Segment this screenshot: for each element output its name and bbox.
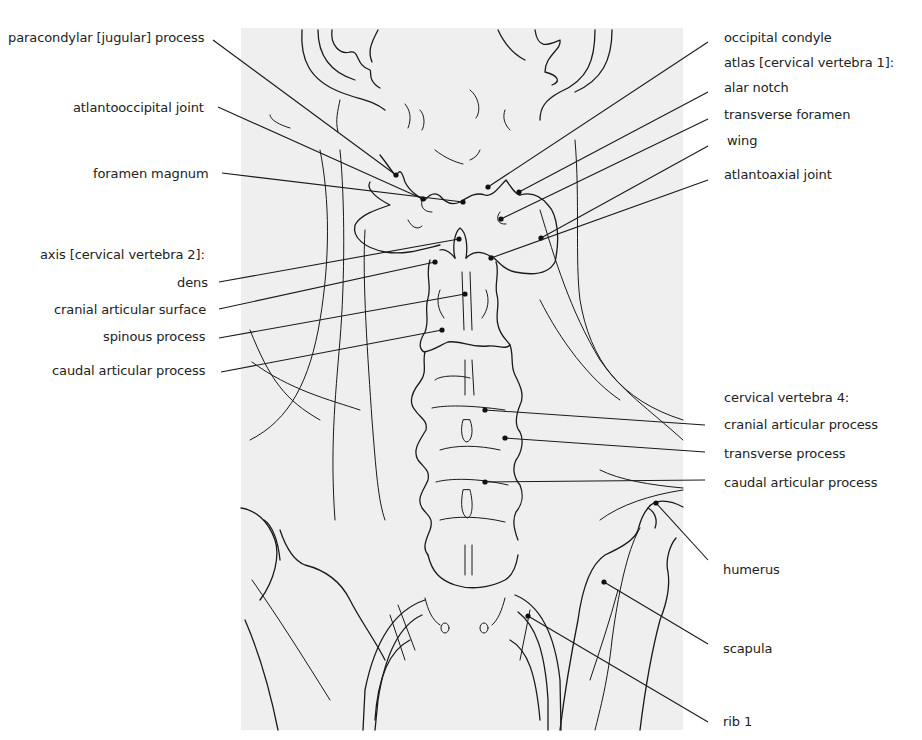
leader-line-foramen-magnum bbox=[222, 173, 463, 202]
pointer-dot-humerus bbox=[653, 500, 658, 505]
leader-line-caudal-articular-process-c4 bbox=[485, 480, 705, 482]
label-dens: dens bbox=[177, 275, 208, 291]
leader-line-atlantoaxial-joint bbox=[491, 180, 708, 258]
pointer-dot-cranial-articular-process-c4 bbox=[482, 407, 487, 412]
leader-line-occipital-condyle bbox=[488, 42, 708, 187]
leader-line-transverse-foramen bbox=[501, 119, 708, 219]
pointer-dot-alar-notch bbox=[516, 189, 521, 194]
label-occipital-condyle: occipital condyle bbox=[724, 30, 832, 46]
pointer-dot-rib-1 bbox=[525, 613, 530, 618]
pointer-dot-scapula bbox=[601, 579, 606, 584]
leader-line-alar-notch bbox=[519, 92, 708, 192]
anatomy-figure: paracondylar [jugular] processatlantoocc… bbox=[0, 0, 922, 740]
leader-line-transverse-process-c4 bbox=[505, 438, 705, 452]
pointer-dot-spinous-process bbox=[462, 291, 467, 296]
leader-line-humerus bbox=[656, 503, 708, 560]
label-transverse-process-c4: transverse process bbox=[724, 446, 846, 462]
label-caudal-articular-process-c2: caudal articular process bbox=[52, 363, 205, 379]
pointer-dot-occipital-condyle bbox=[485, 184, 490, 189]
pointer-dot-paracondylar bbox=[393, 172, 398, 177]
label-cranial-articular-surface: cranial articular surface bbox=[54, 302, 206, 318]
pointer-dot-caudal-articular-process-c4 bbox=[482, 479, 487, 484]
label-rib-1: rib 1 bbox=[723, 714, 752, 730]
leader-line-paracondylar bbox=[213, 40, 396, 175]
leader-line-cranial-articular-surface bbox=[219, 262, 435, 309]
pointer-dot-transverse-process-c4 bbox=[502, 435, 507, 440]
pointer-dot-caudal-articular-process-c2 bbox=[439, 327, 444, 332]
label-transverse-foramen: transverse foramen bbox=[724, 107, 850, 123]
label-caudal-articular-process-c4: caudal articular process bbox=[724, 475, 877, 491]
label-alar-notch: alar notch bbox=[724, 80, 789, 96]
leader-line-dens bbox=[219, 239, 459, 282]
pointer-dot-atlantoaxial-joint bbox=[488, 255, 493, 260]
pointer-dot-dens bbox=[456, 236, 461, 241]
label-atlas-header: atlas [cervical vertebra 1]: bbox=[724, 55, 894, 71]
leader-line-cranial-articular-process-c4 bbox=[485, 410, 705, 425]
pointer-dot-cranial-articular-surface bbox=[432, 259, 437, 264]
label-paracondylar: paracondylar [jugular] process bbox=[8, 30, 204, 46]
label-foramen-magnum: foramen magnum bbox=[93, 166, 209, 182]
label-humerus: humerus bbox=[723, 562, 780, 578]
label-atlantoaxial-joint: atlantoaxial joint bbox=[724, 167, 832, 183]
label-wing: wing bbox=[727, 133, 757, 149]
label-scapula: scapula bbox=[723, 641, 772, 657]
label-cv4-header: cervical vertebra 4: bbox=[724, 390, 849, 406]
leader-line-rib-1 bbox=[528, 616, 708, 722]
leader-line-caudal-articular-process-c2 bbox=[221, 330, 442, 372]
leader-line-scapula bbox=[604, 582, 708, 644]
label-spinous-process: spinous process bbox=[103, 329, 205, 345]
label-cranial-articular-process-c4: cranial articular process bbox=[724, 417, 878, 433]
pointer-dot-foramen-magnum bbox=[460, 199, 465, 204]
label-axis-header: axis [cervical vertebra 2]: bbox=[40, 247, 205, 263]
pointer-dot-transverse-foramen bbox=[498, 216, 503, 221]
label-atlantooccipital: atlantooccipital joint bbox=[73, 100, 204, 116]
